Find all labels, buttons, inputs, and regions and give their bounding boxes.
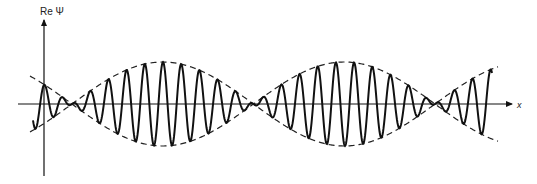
figure: Re Ψ x — [0, 0, 537, 184]
beat-wave-plot: Re Ψ x — [0, 0, 537, 184]
x-axis-label: x — [516, 100, 522, 110]
y-axis-label: Re Ψ — [40, 6, 64, 17]
